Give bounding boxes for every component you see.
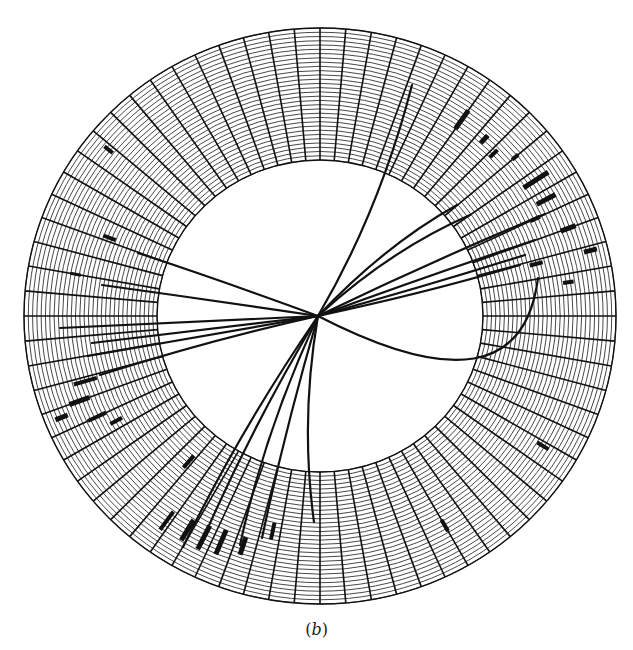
connection-curve xyxy=(138,253,318,316)
filled-cell xyxy=(563,281,574,282)
connection-curve xyxy=(262,316,318,538)
connection-curve xyxy=(318,240,535,316)
filled-cell xyxy=(584,249,597,252)
figure-caption: (b) xyxy=(0,620,633,639)
connection-curve xyxy=(200,316,318,546)
filled-cell xyxy=(104,146,112,153)
filled-cell xyxy=(481,135,488,143)
filled-cell xyxy=(271,523,275,540)
connection-curve xyxy=(92,316,318,343)
connection-curve xyxy=(318,215,470,316)
caption-letter: b xyxy=(311,620,321,639)
caption-paren-close: ) xyxy=(322,620,328,639)
filled-cell xyxy=(55,415,67,420)
connection-curve xyxy=(318,85,412,316)
filled-cell xyxy=(561,226,576,231)
filled-cell xyxy=(70,273,80,275)
filled-cell xyxy=(110,418,122,424)
filled-cell xyxy=(512,155,518,160)
ring-diagram xyxy=(0,0,633,650)
